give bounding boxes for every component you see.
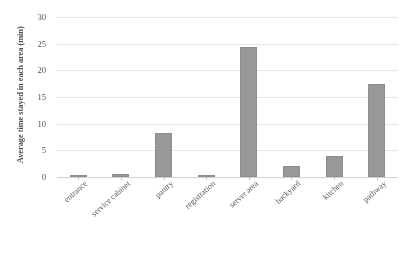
bar[interactable] (155, 133, 172, 177)
y-axis-tick-label: 15 (24, 92, 46, 102)
gridline (57, 177, 398, 178)
bars-group (57, 17, 398, 177)
x-axis-tick-label: registration (183, 179, 217, 211)
x-axis-tick-label: pathway (361, 179, 388, 204)
bar[interactable] (368, 84, 385, 177)
bar-slot (112, 17, 129, 177)
bar-slot (198, 17, 215, 177)
y-axis-tick-label: 10 (24, 119, 46, 129)
y-axis-tick-label: 20 (24, 65, 46, 75)
bar-chart: Average time stayed in each area (min) 0… (0, 0, 406, 256)
bar-slot (70, 17, 87, 177)
bar-slot (326, 17, 343, 177)
x-axis-tick-label: server area (227, 179, 260, 210)
x-axis-tick-label: backyard (274, 179, 302, 206)
x-axis-tick-labels: entranceservice cabinetpantryregistratio… (57, 179, 398, 256)
bar-slot (283, 17, 300, 177)
bar[interactable] (283, 166, 300, 177)
bar[interactable] (326, 156, 343, 177)
y-axis-tick-label: 30 (24, 12, 46, 22)
y-axis-tick-label: 25 (24, 39, 46, 49)
bar-slot (368, 17, 385, 177)
y-axis-tick-label: 0 (24, 172, 46, 182)
plot-area: 051015202530 (57, 17, 398, 177)
bar[interactable] (240, 47, 257, 177)
x-axis-tick-label: pantry (153, 179, 175, 200)
bar-slot (155, 17, 172, 177)
x-axis-tick-label: service cabinet (90, 179, 132, 218)
y-axis-tick-label: 5 (24, 145, 46, 155)
bar-slot (240, 17, 257, 177)
x-axis-tick-label: kitchen (321, 179, 345, 202)
x-axis-tick-label: entrance (63, 179, 90, 204)
